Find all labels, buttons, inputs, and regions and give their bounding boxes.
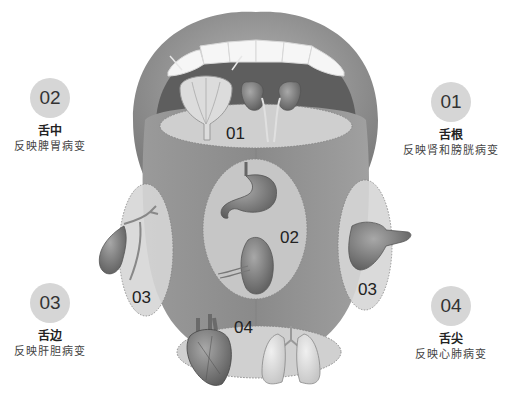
zone-03-left-number: 03 [132,288,151,308]
zone-02-title: 舌中 [0,124,105,138]
zone-03-right-number: 03 [358,280,377,300]
zone-01-description: 反映肾和膀胱病变 [396,144,506,158]
zone-01-number: 01 [226,124,245,144]
tongue-diagram: 01 02 03 03 04 02 舌中 反映脾胃病变 01 舌根 反映肾和膀胱… [0,0,509,394]
zone-02-badge: 02 [30,78,70,118]
label-zone-01: 01 舌根 反映肾和膀胱病变 [396,82,506,158]
zone-04-description: 反映心肺病变 [396,348,506,362]
label-zone-03: 03 舌边 反映肝胆病变 [0,283,105,359]
zone-04-badge: 04 [431,286,471,326]
zone-02-number: 02 [280,228,299,248]
zone-04-title: 舌尖 [396,332,506,346]
zone-01-title: 舌根 [396,128,506,142]
label-zone-04: 04 舌尖 反映心肺病变 [396,286,506,362]
zone-03-badge: 03 [30,283,70,323]
zone-02-description: 反映脾胃病变 [0,140,105,154]
zone-03-description: 反映肝胆病变 [0,345,105,359]
zone-04-number: 04 [234,318,253,338]
zone-03-title: 舌边 [0,329,105,343]
zone-01-badge: 01 [431,82,471,122]
label-zone-02: 02 舌中 反映脾胃病变 [0,78,105,154]
